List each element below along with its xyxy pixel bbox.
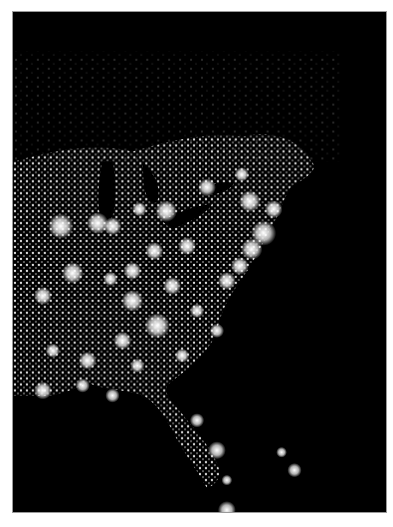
city-light-cluster: [103, 272, 117, 286]
city-light-cluster: [163, 277, 181, 295]
city-light-cluster: [221, 475, 232, 486]
city-light-cluster: [104, 217, 122, 235]
night-lights-map: [13, 12, 386, 512]
figure-caption-truncated: [14, 519, 384, 527]
city-light-cluster: [231, 257, 249, 275]
northern-sparse-lights: [13, 52, 341, 162]
city-light-cluster: [265, 200, 283, 218]
city-light-cluster: [178, 237, 196, 255]
lake-michigan: [98, 161, 115, 221]
city-light-cluster: [132, 202, 146, 216]
city-light-cluster: [130, 358, 144, 372]
city-light-cluster: [75, 378, 89, 392]
city-light-cluster: [287, 463, 301, 477]
city-light-cluster: [123, 262, 141, 280]
city-light-cluster: [79, 352, 97, 370]
city-light-cluster: [190, 304, 204, 318]
city-light-cluster: [145, 242, 163, 260]
city-light-cluster: [190, 413, 204, 427]
city-light-cluster: [34, 382, 52, 400]
city-light-cluster: [34, 287, 52, 305]
city-light-cluster: [239, 190, 260, 212]
city-light-cluster: [198, 178, 216, 196]
night-lights-satellite-image: [12, 11, 387, 513]
city-light-cluster: [241, 238, 262, 260]
city-light-cluster: [62, 262, 83, 284]
city-light-cluster: [208, 441, 226, 459]
city-light-cluster: [175, 348, 189, 362]
city-light-cluster: [210, 324, 224, 338]
city-light-cluster: [276, 447, 287, 458]
city-light-cluster: [155, 200, 176, 222]
city-light-cluster: [46, 343, 60, 357]
city-light-cluster: [218, 272, 236, 290]
city-light-cluster: [105, 388, 119, 402]
city-light-cluster: [122, 290, 143, 312]
city-light-cluster: [145, 313, 170, 338]
city-light-cluster: [48, 214, 73, 239]
city-light-cluster: [235, 167, 249, 181]
city-light-cluster: [113, 332, 131, 350]
